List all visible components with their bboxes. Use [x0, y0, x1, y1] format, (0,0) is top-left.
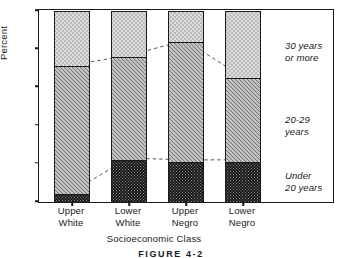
y-tick-mark: [35, 47, 40, 49]
bar-segment: [168, 11, 204, 42]
upper-trend: [72, 40, 242, 76]
bar-segment: [225, 162, 261, 202]
bar-segment: [168, 42, 204, 162]
x-tick-label-line: Lower: [202, 205, 282, 217]
legend-note-over30: 30 years or more: [285, 40, 322, 63]
figure-container: Percent 02040608010030 years or more20-2…: [0, 0, 342, 258]
bar-lower-negro: [225, 11, 261, 202]
bar-upper-white: [54, 11, 90, 202]
lower-trend: [72, 158, 242, 192]
plot-inner: 02040608010030 years or more20-29 yearsU…: [39, 10, 333, 202]
bar-segment: [54, 66, 90, 194]
bar-segment: [54, 11, 90, 66]
figure-caption: FIGURE 4-2: [0, 249, 342, 258]
x-tick-label-line: Negro: [202, 217, 282, 229]
bar-segment: [111, 11, 147, 57]
x-axis-title: Socioeconomic Class: [38, 233, 270, 244]
y-axis-title: Percent: [0, 8, 9, 78]
bar-segment: [225, 11, 261, 78]
bar-lower-white: [111, 11, 147, 202]
y-tick-mark: [35, 9, 40, 11]
plot-area: 02040608010030 years or more20-29 yearsU…: [38, 9, 334, 203]
bar-segment: [168, 162, 204, 202]
y-tick-mark: [35, 162, 40, 164]
bar-upper-negro: [168, 11, 204, 202]
bar-segment: [111, 57, 147, 160]
y-tick-mark: [35, 200, 40, 202]
y-tick-mark: [35, 124, 40, 126]
legend-note-mid2029: 20-29 years: [285, 114, 310, 137]
bar-segment: [111, 160, 147, 202]
y-tick-mark: [35, 86, 40, 88]
bar-segment: [225, 78, 261, 162]
legend-note-under20: Under 20 years: [285, 170, 322, 193]
x-tick-label: LowerNegro: [202, 205, 282, 228]
